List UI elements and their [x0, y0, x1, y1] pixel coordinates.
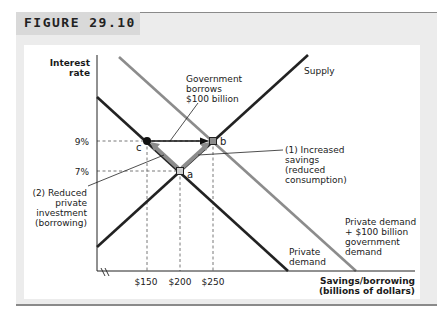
y-tick-9: 9%	[75, 137, 90, 147]
supply-label: Supply	[304, 66, 335, 76]
chart: b a c Interest rate 9% 7% $150 $200 $250…	[0, 0, 437, 319]
combined-demand-label-line2: + $100 billion	[345, 227, 408, 237]
annotation-investment-line1: (2) Reduced	[32, 188, 87, 198]
y-axis-title-line1: Interest	[50, 58, 91, 68]
x-tick-200: $200	[169, 277, 192, 287]
guide-lines	[97, 141, 213, 271]
x-axis-title-line1: Savings/borrowing	[320, 276, 415, 286]
point-a-marker	[177, 168, 184, 175]
annotation-investment-line4: (borrowing)	[35, 218, 87, 228]
annotation-savings-line2: savings	[285, 155, 319, 165]
point-c-label: c	[136, 142, 142, 153]
combined-demand-label-line4: demand	[345, 247, 382, 257]
annotation-investment-line2: private	[55, 198, 87, 208]
annotation-gov-line3: $100 billion	[186, 94, 239, 104]
point-b-marker	[210, 138, 217, 145]
y-tick-7: 7%	[75, 167, 90, 177]
annotation-gov-line1: Government	[186, 74, 243, 84]
y-axis-title-line2: rate	[69, 68, 90, 78]
x-tick-150: $150	[135, 277, 158, 287]
annotation-gov-line2: borrows	[186, 84, 222, 94]
private-plus-government-demand-curve	[119, 57, 356, 271]
private-demand-label-line1: Private	[289, 247, 321, 257]
x-axis-title-line2: (billions of dollars)	[319, 286, 415, 296]
annotation-savings-line1: (1) Increased	[285, 145, 344, 155]
annotation-investment-line3: investment	[36, 208, 87, 218]
x-tick-250: $250	[202, 277, 225, 287]
combined-demand-label-line1: Private demand	[345, 217, 416, 227]
axis-break-icon	[101, 268, 109, 276]
point-c-marker	[143, 137, 151, 145]
point-b-label: b	[220, 136, 226, 147]
combined-demand-label-line3: government	[345, 237, 400, 247]
annotation-savings-line3: (reduced	[285, 165, 325, 175]
private-demand-label-line2: demand	[289, 257, 326, 267]
point-a-label: a	[187, 169, 193, 180]
annotation-savings-line4: consumption)	[285, 175, 347, 185]
